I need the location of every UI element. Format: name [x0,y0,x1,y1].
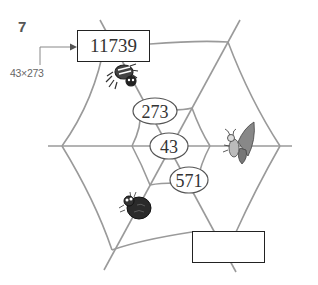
butterfly-icon [223,122,254,164]
question-number: 7 [18,18,26,35]
oval-label: 273 [142,102,169,122]
oval-571: 571 [170,167,208,193]
spider-icon [106,64,138,89]
oval-43: 43 [150,133,188,159]
oval-273: 273 [133,98,177,124]
oval-label: 571 [176,171,203,191]
bottom-answer-box[interactable] [192,231,265,263]
ladybug-icon [119,192,151,219]
top-answer-box: 11739 [77,30,150,62]
spider-web-diagram: 273 43 571 [0,0,318,285]
arrow-icon [40,44,77,66]
oval-label: 43 [160,137,178,157]
hint-expression: 43×273 [10,67,44,79]
